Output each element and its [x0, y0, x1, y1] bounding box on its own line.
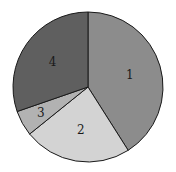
pie-slice-label-3: 3: [37, 106, 45, 120]
pie-chart: 1234: [0, 0, 176, 172]
pie-slice-label-2: 2: [77, 123, 85, 137]
pie-slice-label-4: 4: [49, 55, 57, 69]
pie-slice-label-1: 1: [126, 68, 134, 82]
pie-slices: [13, 12, 163, 162]
